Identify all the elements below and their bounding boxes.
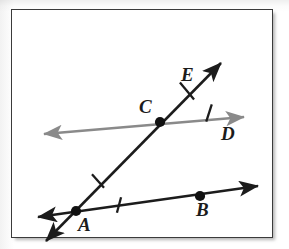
figure-page: A B C D E [0,0,289,249]
line-CD [44,117,244,134]
point-label-D: D [221,124,235,143]
point-C [155,117,165,127]
point-label-E: E [181,65,194,84]
point-label-A: A [78,215,91,234]
tick-on-AC-mark [92,174,104,187]
point-label-C: C [139,97,152,116]
point-label-B: B [196,200,209,219]
line-AB [38,186,258,217]
geometry-diagram-canvas [0,0,289,249]
